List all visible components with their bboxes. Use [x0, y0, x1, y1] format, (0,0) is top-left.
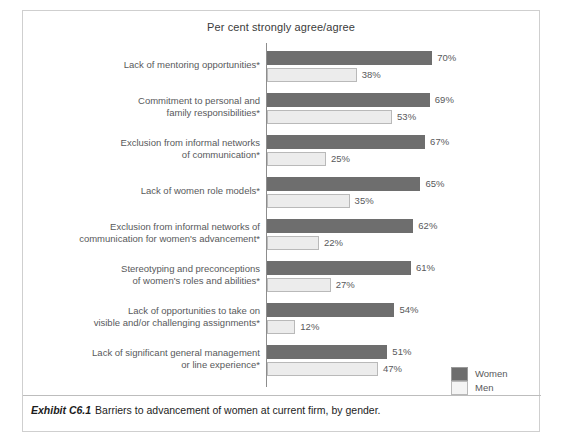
bar-row-women: 62% — [267, 219, 473, 233]
category-label-line: communication for women's advancement* — [45, 233, 260, 245]
bar-value-label: 70% — [437, 51, 456, 65]
bar-row-women: 70% — [267, 51, 492, 65]
category-label-line: Lack of mentoring opportunities* — [45, 59, 260, 71]
bar-value-label: 22% — [324, 236, 343, 250]
bar-women[interactable] — [267, 51, 432, 65]
category-label-line: of communication* — [45, 149, 260, 161]
bar-row-women: 51% — [267, 345, 447, 359]
chart-legend: Women Men — [451, 367, 541, 395]
bar-row-men: 53% — [267, 110, 452, 124]
bar-women[interactable] — [267, 219, 413, 233]
bar-women[interactable] — [267, 177, 420, 191]
bar-value-label: 69% — [435, 93, 454, 107]
legend-label-men: Men — [475, 381, 493, 395]
legend-label-women: Women — [475, 367, 508, 381]
bar-row-women: 67% — [267, 135, 485, 149]
bar-value-label: 51% — [392, 345, 411, 359]
bar-row-men: 47% — [267, 362, 438, 376]
bar-men[interactable] — [267, 278, 331, 292]
bar-women[interactable] — [267, 93, 430, 107]
legend-entry-women: Women — [451, 367, 541, 381]
bar-row-women: 61% — [267, 261, 471, 275]
bar-value-label: 35% — [355, 194, 374, 208]
category-label-line: visible and/or challenging assignments* — [45, 317, 260, 329]
category-label-line: Exclusion from informal networks — [45, 137, 260, 149]
exhibit-caption: Exhibit C6.1Barriers to advancement of w… — [31, 403, 537, 417]
bar-row-men: 27% — [267, 278, 391, 292]
bar-row-women: 65% — [267, 177, 480, 191]
bar-value-label: 54% — [399, 303, 418, 317]
exhibit-frame: Per cent strongly agree/agree Lack of me… — [22, 10, 540, 432]
bar-value-label: 47% — [383, 362, 402, 376]
bar-row-women: 54% — [267, 303, 454, 317]
bar-group: Commitment to personal andfamily respons… — [23, 91, 541, 133]
category-label: Exclusion from informal networksof commu… — [45, 137, 260, 161]
bar-group: Lack of mentoring opportunities*70%38% — [23, 49, 541, 91]
bar-women[interactable] — [267, 345, 387, 359]
bar-men[interactable] — [267, 236, 319, 250]
bar-group: Lack of opportunities to take onvisible … — [23, 301, 541, 343]
bar-value-label: 27% — [336, 278, 355, 292]
bar-men[interactable] — [267, 152, 326, 166]
category-label: Lack of opportunities to take onvisible … — [45, 305, 260, 329]
bar-row-men: 38% — [267, 68, 417, 82]
bar-value-label: 25% — [331, 152, 350, 166]
bar-men[interactable] — [267, 362, 378, 376]
category-label: Stereotyping and preconceptionsof women'… — [45, 263, 260, 287]
category-label-line: Commitment to personal and — [45, 95, 260, 107]
bar-men[interactable] — [267, 68, 357, 82]
category-label: Lack of mentoring opportunities* — [45, 59, 260, 71]
bar-row-men: 12% — [267, 320, 355, 334]
caption-divider — [23, 395, 541, 396]
bar-row-men: 22% — [267, 236, 379, 250]
chart-plot-area: Lack of mentoring opportunities*70%38%Co… — [23, 41, 541, 389]
legend-swatch-men-icon — [451, 381, 468, 395]
bar-value-label: 38% — [362, 68, 381, 82]
bar-group: Exclusion from informal networks ofcommu… — [23, 217, 541, 259]
category-label-line: Lack of women role models* — [45, 185, 260, 197]
bar-group: Stereotyping and preconceptionsof women'… — [23, 259, 541, 301]
bar-row-men: 35% — [267, 194, 410, 208]
category-label-line: Exclusion from informal networks of — [45, 221, 260, 233]
bar-group: Lack of women role models*65%35% — [23, 175, 541, 217]
bar-men[interactable] — [267, 194, 350, 208]
bar-value-label: 65% — [425, 177, 444, 191]
category-label-line: or line experience* — [45, 359, 260, 371]
category-label-line: family responsibilities* — [45, 107, 260, 119]
category-label-line: of women's roles and abilities* — [45, 275, 260, 287]
legend-entry-men: Men — [451, 381, 541, 395]
chart-title: Per cent strongly agree/agree — [23, 21, 539, 33]
bar-men[interactable] — [267, 320, 295, 334]
bar-row-women: 69% — [267, 93, 490, 107]
category-label-line: Lack of opportunities to take on — [45, 305, 260, 317]
category-label: Lack of significant general managementor… — [45, 347, 260, 371]
bar-value-label: 53% — [397, 110, 416, 124]
bar-value-label: 62% — [418, 219, 437, 233]
bar-women[interactable] — [267, 261, 411, 275]
exhibit-id: Exhibit C6.1 — [31, 404, 91, 416]
bar-value-label: 67% — [430, 135, 449, 149]
category-label: Lack of women role models* — [45, 185, 260, 197]
caption-text: Barriers to advancement of women at curr… — [95, 404, 380, 416]
bar-group: Exclusion from informal networksof commu… — [23, 133, 541, 175]
bar-value-label: 12% — [300, 320, 319, 334]
category-label-line: Stereotyping and preconceptions — [45, 263, 260, 275]
category-label: Commitment to personal andfamily respons… — [45, 95, 260, 119]
legend-swatch-women-icon — [451, 367, 468, 381]
bar-women[interactable] — [267, 303, 394, 317]
bar-row-men: 25% — [267, 152, 386, 166]
bar-women[interactable] — [267, 135, 425, 149]
category-label-line: Lack of significant general management — [45, 347, 260, 359]
category-label: Exclusion from informal networks ofcommu… — [45, 221, 260, 245]
bar-men[interactable] — [267, 110, 392, 124]
bar-value-label: 61% — [416, 261, 435, 275]
